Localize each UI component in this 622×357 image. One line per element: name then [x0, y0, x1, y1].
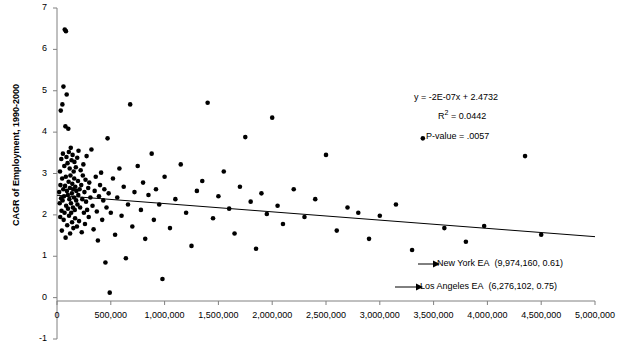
- data-point: [102, 187, 107, 192]
- regression-annotation: y = -2E-07x + 2.4732 R2 = 0.0442 P-value…: [408, 90, 578, 144]
- regression-equation: y = -2E-07x + 2.4732: [408, 90, 578, 105]
- data-point: [254, 247, 259, 252]
- data-point: [243, 135, 248, 140]
- data-point: [105, 136, 110, 141]
- data-point: [58, 183, 63, 188]
- data-point: [61, 84, 66, 89]
- data-point: [135, 164, 140, 169]
- data-point: [73, 184, 78, 189]
- data-point: [139, 208, 144, 213]
- data-point: [75, 155, 80, 160]
- data-point: [270, 115, 275, 120]
- data-point: [67, 197, 72, 202]
- data-point: [66, 206, 71, 211]
- data-point: [74, 165, 79, 170]
- data-point: [81, 173, 86, 178]
- callout-newyork-label: New York EA: [437, 258, 490, 268]
- y-axis-ticks: [53, 8, 57, 339]
- data-point: [64, 29, 69, 34]
- data-point: [63, 235, 68, 240]
- data-point: [57, 190, 62, 195]
- data-point: [84, 199, 89, 204]
- data-point: [126, 202, 131, 207]
- trend-line: [57, 195, 595, 236]
- data-point: [313, 197, 318, 202]
- data-point: [72, 176, 77, 181]
- data-point: [324, 153, 329, 158]
- data-point: [128, 102, 133, 107]
- data-point: [205, 100, 210, 105]
- data-point: [302, 215, 307, 220]
- data-point: [184, 211, 189, 216]
- data-point: [115, 195, 120, 200]
- data-point: [61, 151, 66, 156]
- data-point: [154, 187, 159, 192]
- data-point: [90, 203, 95, 208]
- data-point: [70, 220, 75, 225]
- data-point: [66, 127, 71, 132]
- data-point: [367, 237, 372, 242]
- data-point: [64, 155, 69, 160]
- data-point: [84, 154, 89, 159]
- data-point: [83, 222, 88, 227]
- data-point: [78, 205, 83, 210]
- data-point: [104, 205, 109, 210]
- data-point: [275, 203, 280, 208]
- p-value-text: P-value = .0057: [408, 124, 578, 144]
- data-point: [60, 228, 65, 233]
- callout-losangeles-coords: (6,276,102, 0.75): [489, 281, 558, 291]
- data-point: [77, 187, 82, 192]
- data-point: [65, 223, 70, 228]
- callout-newyork-coords: (9,974,160, 0.61): [495, 258, 564, 268]
- data-point: [82, 190, 87, 195]
- data-point: [76, 148, 81, 153]
- data-point: [86, 186, 91, 191]
- data-point: [64, 175, 69, 180]
- callout-newyork: New York EA (9,974,160, 0.61): [437, 258, 563, 268]
- data-point: [75, 224, 80, 229]
- data-point: [221, 169, 226, 174]
- callout-losangeles-label: Los Angeles EA: [420, 281, 484, 291]
- data-point: [356, 211, 361, 216]
- data-point: [168, 226, 173, 231]
- r-squared-value: R2 = 0.0442: [408, 105, 578, 124]
- data-point: [113, 232, 118, 237]
- data-point: [72, 208, 77, 213]
- data-point: [67, 166, 72, 171]
- data-point: [70, 153, 75, 158]
- data-point: [83, 177, 88, 182]
- data-point: [265, 212, 270, 217]
- data-point: [200, 179, 205, 184]
- data-point: [64, 92, 69, 97]
- data-point: [81, 162, 86, 167]
- data-point: [70, 191, 75, 196]
- data-point: [60, 102, 65, 107]
- data-point: [103, 260, 108, 265]
- data-point: [162, 175, 167, 180]
- data-point: [85, 208, 90, 213]
- data-point: [211, 216, 216, 221]
- plot-area: [0, 0, 622, 357]
- data-point: [86, 215, 91, 220]
- data-point: [248, 199, 253, 204]
- data-point: [78, 168, 83, 173]
- data-point: [91, 227, 96, 232]
- scatter-chart: CAGR of Employment, 1990-2000 -101234567…: [0, 0, 622, 357]
- data-point: [59, 157, 64, 162]
- data-point: [117, 166, 122, 171]
- data-point: [98, 183, 103, 188]
- data-point: [149, 151, 154, 156]
- y-tick-label: 2: [25, 209, 47, 219]
- data-point: [68, 146, 73, 151]
- data-point: [378, 213, 383, 218]
- data-point: [523, 154, 528, 159]
- data-point: [143, 237, 148, 242]
- data-point: [291, 187, 296, 192]
- data-point: [93, 175, 98, 180]
- data-point: [58, 108, 63, 113]
- data-point: [58, 169, 63, 174]
- data-point: [178, 162, 183, 167]
- y-tick-label: 7: [25, 2, 47, 12]
- data-point: [124, 256, 129, 261]
- r-squared-number: = 0.0442: [448, 111, 486, 121]
